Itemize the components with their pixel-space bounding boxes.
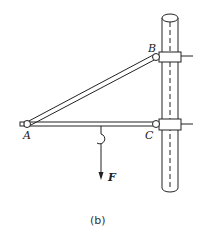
hook <box>97 126 105 144</box>
clamp-c <box>159 119 193 130</box>
joint-c <box>153 121 160 128</box>
label-a: A <box>23 130 31 141</box>
label-b: B <box>148 43 156 54</box>
label-f: F <box>108 172 116 183</box>
pin-a <box>20 122 24 126</box>
arrow-head-icon <box>99 172 104 180</box>
joint-a <box>24 121 31 128</box>
member-ac <box>27 122 155 126</box>
figure-caption: (b) <box>90 215 106 226</box>
member-ab <box>27 54 156 126</box>
diagram-drawing <box>0 0 203 237</box>
label-c: C <box>145 130 153 141</box>
pole <box>162 14 178 192</box>
truss-diagram: B C A F (b) <box>0 0 203 237</box>
clamp-b <box>159 52 193 62</box>
